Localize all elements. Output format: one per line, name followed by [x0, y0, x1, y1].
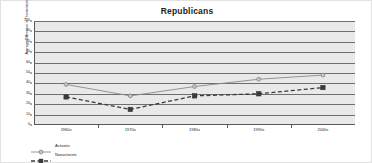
data-point-activists-1970s	[128, 94, 132, 98]
x-tick-1990s: 1990s	[253, 128, 264, 132]
y-tick-mark-100	[30, 21, 32, 22]
legend-label-activists: Activists	[55, 144, 70, 148]
y-tick-mark-20	[30, 104, 32, 105]
data-point-activists-1960s	[64, 83, 68, 87]
y-tick-mark-60	[30, 62, 32, 63]
data-point-nonactivists-1960s	[64, 95, 68, 99]
y-tick-mark-30	[30, 93, 32, 94]
data-point-nonactivists-1980s	[192, 94, 196, 98]
chart-legend: ActivistsNonactivists	[30, 142, 150, 162]
x-tick-2000s: 2000s	[317, 128, 328, 132]
y-tick-mark-80	[30, 41, 32, 42]
x-tick-mark-3	[227, 125, 228, 128]
y-tick-mark-70	[30, 52, 32, 53]
data-point-nonactivists-1970s	[128, 107, 132, 111]
x-tick-1970s: 1970s	[125, 128, 136, 132]
data-point-nonactivists-2000s	[321, 85, 325, 89]
y-tick-mark-10	[30, 114, 32, 115]
legend-label-nonactivists: Nonactivists	[55, 153, 77, 157]
series-line-nonactivists	[66, 88, 323, 110]
legend-swatch-nonactivists	[30, 151, 52, 159]
y-tick-mark-90	[30, 31, 32, 32]
y-tick-mark-40	[30, 83, 32, 84]
legend-item-activists[interactable]: Activists	[30, 142, 70, 150]
legend-item-nonactivists[interactable]: Nonactivists	[30, 151, 77, 159]
x-tick-1960s: 1960s	[61, 128, 72, 132]
data-point-nonactivists-1990s	[257, 92, 261, 96]
y-tick-mark-0	[30, 125, 32, 126]
x-tick-mark-2	[162, 125, 163, 128]
data-point-activists-2000s	[321, 73, 325, 77]
data-point-activists-1980s	[193, 85, 197, 89]
x-axis-tick-labels: 1960s1970s1980s1990s2000s	[34, 128, 355, 138]
plot-wrapper	[34, 21, 355, 125]
legend-swatch-activists	[30, 142, 52, 150]
chart-title: Republicans	[1, 6, 372, 16]
chart-container: Republicans Average Difference in Thermo…	[0, 0, 372, 163]
series-layer	[34, 21, 355, 125]
y-axis-tick-labels: 0102030405060708090100	[1, 21, 32, 125]
x-tick-mark-1	[98, 125, 99, 128]
data-point-activists-1990s	[257, 77, 261, 81]
y-tick-mark-50	[30, 73, 32, 74]
x-tick-1980s: 1980s	[189, 128, 200, 132]
x-tick-mark-4	[291, 125, 292, 128]
